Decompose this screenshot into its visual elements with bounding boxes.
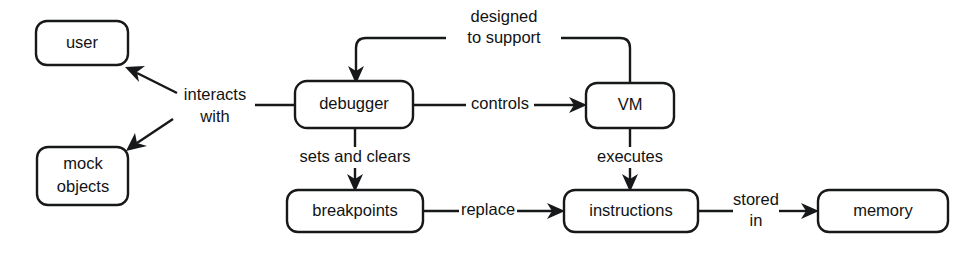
node-breakpoints[interactable]: breakpoints (287, 190, 423, 232)
node-vm[interactable]: VM (586, 83, 674, 128)
edge-interacts-with-label-line2: with (199, 107, 229, 125)
edge-controls: controls (413, 94, 587, 113)
edge-designed-to-support-path-right (561, 38, 630, 83)
edge-sets-and-clears-label: sets and clears (300, 147, 411, 165)
edge-interacts-with-label-line1: interacts (184, 85, 246, 103)
edge-replace-label: replace (461, 200, 515, 218)
edge-designed-to-support-path-left (356, 38, 446, 72)
node-debugger[interactable]: debugger (295, 81, 413, 128)
edge-sets-and-clears: sets and clears (300, 128, 411, 192)
diagram-canvas: designed to support interacts with contr… (0, 0, 980, 254)
node-debugger-label: debugger (319, 94, 389, 112)
edge-interacts-with-lower-shaft (137, 119, 173, 143)
node-memory-label: memory (853, 201, 913, 219)
edge-stored-in-label-line2: in (750, 211, 763, 229)
node-mock-objects-label-line2: objects (57, 177, 109, 195)
edge-interacts-with-upper-shaft (137, 73, 177, 93)
node-user[interactable]: user (36, 21, 128, 65)
edge-interacts-with-upper-arrowhead (125, 66, 145, 82)
edge-designed-to-support-label-line1: designed (471, 7, 538, 25)
edge-interacts-with-lower-arrowhead (126, 133, 147, 151)
edge-replace: replace (423, 200, 565, 219)
node-memory[interactable]: memory (818, 190, 948, 232)
edge-designed-to-support: designed to support (348, 7, 630, 84)
edge-executes-label: executes (597, 147, 663, 165)
node-breakpoints-label: breakpoints (312, 201, 397, 219)
edge-designed-to-support-label-line2: to support (467, 28, 541, 46)
node-user-label: user (66, 33, 99, 51)
node-mock-objects-label-line1: mock (63, 154, 103, 172)
edge-interacts-with: interacts with (125, 66, 295, 151)
node-instructions-label: instructions (589, 201, 672, 219)
edge-executes: executes (597, 128, 663, 192)
node-vm-label: VM (618, 95, 643, 113)
node-mock-objects[interactable]: mock objects (37, 147, 128, 205)
diagram-svg: designed to support interacts with contr… (0, 0, 980, 254)
node-instructions[interactable]: instructions (564, 190, 698, 232)
edge-stored-in-label-line1: stored (733, 190, 779, 208)
edge-stored-in: stored in (698, 190, 819, 229)
edge-controls-label: controls (471, 94, 529, 112)
